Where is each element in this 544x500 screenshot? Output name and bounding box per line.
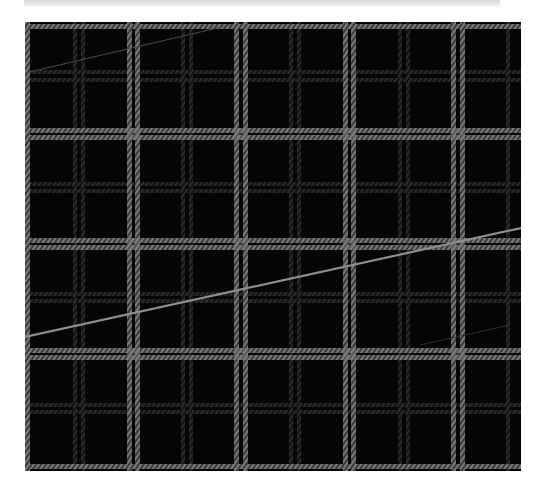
- photo-canvas: [0, 0, 544, 500]
- top-gray-strip: [24, 0, 500, 7]
- plaid-fabric: [25, 22, 521, 471]
- plaid-pattern: [25, 22, 521, 471]
